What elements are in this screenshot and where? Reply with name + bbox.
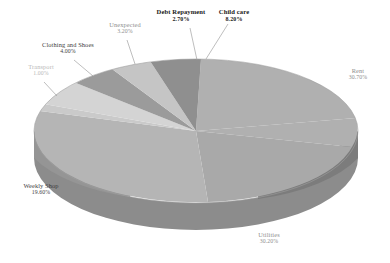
label-rent-name: Rent: [336, 67, 380, 74]
label-debt-repayment: Debt Repayment 2.70%: [150, 8, 212, 22]
label-rent: Rent 30.70%: [336, 67, 380, 81]
label-unexpected-percent: 3.20%: [97, 28, 153, 35]
label-utilities-name: Utilities: [243, 231, 295, 238]
label-transport: Transport 1.00%: [14, 63, 68, 77]
pie-slices: [34, 59, 357, 202]
label-clothing-and-shoes-percent: 4.00%: [22, 48, 114, 55]
leader-child-care: [206, 24, 228, 59]
label-weekly-shop-name: Weekly Shop: [8, 182, 74, 189]
label-weekly-shop: Weekly Shop 19.60%: [8, 182, 74, 196]
label-child-care-name: Child care: [207, 8, 261, 16]
leader-unexpected: [127, 40, 135, 64]
label-utilities-percent: 30.20%: [243, 238, 295, 245]
label-debt-repayment-name: Debt Repayment: [150, 8, 212, 16]
label-transport-percent: 1.00%: [14, 70, 68, 77]
label-child-care: Child care 8.20%: [207, 8, 261, 22]
label-weekly-shop-percent: 19.60%: [8, 189, 74, 196]
label-rent-percent: 30.70%: [336, 74, 380, 81]
pie-chart: Debt Repayment 2.70% Child care 8.20% Un…: [0, 0, 390, 263]
label-child-care-percent: 8.20%: [207, 16, 261, 23]
label-transport-name: Transport: [14, 63, 68, 70]
label-unexpected: Unexpected 3.20%: [97, 21, 153, 35]
label-debt-repayment-percent: 2.70%: [150, 16, 212, 23]
leader-clothing: [74, 60, 93, 76]
leader-transport: [44, 82, 57, 96]
label-clothing-and-shoes: Clothing and Shoes 4.00%: [22, 41, 114, 55]
pie-chart-canvas: [0, 0, 390, 263]
label-clothing-and-shoes-name: Clothing and Shoes: [22, 41, 114, 48]
leader-debt-repayment: [190, 28, 197, 60]
label-utilities: Utilities 30.20%: [243, 231, 295, 245]
label-unexpected-name: Unexpected: [97, 21, 153, 28]
